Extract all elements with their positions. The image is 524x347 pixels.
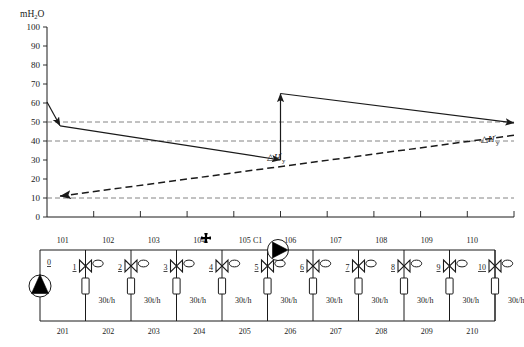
orifice-1 xyxy=(82,278,89,294)
valve-number-7: 7 xyxy=(346,263,350,272)
flow-label-10: 30t/h xyxy=(508,296,524,305)
series-supply-head-segment-a xyxy=(60,126,280,160)
valve-number-2: 2 xyxy=(118,263,122,272)
valve-number-1: 1 xyxy=(73,263,77,272)
valve-handwheel-1 xyxy=(93,260,103,267)
valve-handwheel-3 xyxy=(184,260,194,267)
branch-3: 330t/h xyxy=(164,250,206,321)
bottom-node-label-209: 209 xyxy=(421,327,433,336)
booster-pump[interactable]: C1 xyxy=(253,236,289,261)
x-axis-ticks xyxy=(94,211,514,217)
source-pump-label: 0 xyxy=(47,258,51,267)
y-tick-label: 100 xyxy=(27,22,41,32)
flow-label-7: 30t/h xyxy=(372,296,388,305)
top-node-label-101: 101 xyxy=(57,236,69,245)
top-node-label-103: 103 xyxy=(148,236,160,245)
flow-label-8: 30t/h xyxy=(417,296,433,305)
valve-handwheel-2 xyxy=(138,260,148,267)
y-tick-label: 20 xyxy=(31,174,41,184)
bottom-node-label-204: 204 xyxy=(193,327,205,336)
delta-sub-1: y xyxy=(282,157,286,164)
valve-handwheel-9 xyxy=(457,260,467,267)
branch-10: 1030t/h xyxy=(478,250,524,321)
y-tick-label: 30 xyxy=(31,155,41,165)
valve-6[interactable] xyxy=(307,260,331,272)
series-layer xyxy=(47,94,514,197)
orifice-10 xyxy=(491,278,498,294)
flow-label-1: 30t/h xyxy=(99,296,115,305)
y-tick-label: 10 xyxy=(31,193,41,203)
y-axis-ticks: 0102030405060708090100 xyxy=(27,22,48,222)
orifice-4 xyxy=(218,278,225,294)
delta-h-mid-label: △H′y xyxy=(267,151,286,165)
top-node-label-102: 102 xyxy=(102,236,114,245)
branch-4: 430t/h xyxy=(209,250,251,321)
delta-tri-1: △ xyxy=(267,152,274,162)
series-return-head-line xyxy=(60,135,514,196)
flow-label-3: 30t/h xyxy=(190,296,206,305)
bottom-node-label-201: 201 xyxy=(57,327,69,336)
diagram-root: mH2O 0102030405060708090100 △H′y △H′y xyxy=(0,0,524,347)
top-node-label-107: 107 xyxy=(330,236,342,245)
flow-label-4: 30t/h xyxy=(235,296,251,305)
y-tick-label: 60 xyxy=(31,98,41,108)
bottom-node-label-206: 206 xyxy=(284,327,296,336)
bottom-node-label-207: 207 xyxy=(330,327,342,336)
branch-2: 230t/h xyxy=(118,250,160,321)
valve-handwheel-4 xyxy=(229,260,239,267)
delta-sub-2: y xyxy=(496,139,500,146)
valve-10[interactable] xyxy=(489,260,513,272)
orifice-8 xyxy=(400,278,407,294)
unit-main: mH xyxy=(20,9,34,19)
y-axis-unit-label: mH2O xyxy=(20,9,45,20)
y-tick-label: 0 xyxy=(36,212,41,222)
flow-label-9: 30t/h xyxy=(463,296,479,305)
series-supply-head-segment-b xyxy=(281,94,515,123)
valve-number-9: 9 xyxy=(437,263,441,272)
top-node-label-109: 109 xyxy=(421,236,433,245)
valve-handwheel-8 xyxy=(411,260,421,267)
orifice-6 xyxy=(309,278,316,294)
orifice-2 xyxy=(127,278,134,294)
valve-number-10: 10 xyxy=(478,263,486,272)
valve-number-5: 5 xyxy=(255,263,259,272)
delta-h-right-label: △H′y xyxy=(481,133,500,147)
valve-1[interactable] xyxy=(80,260,104,272)
delta-tri-2: △ xyxy=(481,134,488,144)
valve-number-4: 4 xyxy=(209,263,213,272)
valve-number-8: 8 xyxy=(391,263,395,272)
hydraulic-profile-and-network-diagram: mH2O 0102030405060708090100 △H′y △H′y xyxy=(0,0,524,347)
top-node-label-110: 110 xyxy=(466,236,478,245)
valve-number-6: 6 xyxy=(300,263,304,272)
flow-label-2: 30t/h xyxy=(144,296,160,305)
bottom-node-label-205: 205 xyxy=(239,327,251,336)
valve-handwheel-7 xyxy=(366,260,376,267)
top-node-label-108: 108 xyxy=(375,236,387,245)
y-tick-label: 80 xyxy=(31,60,41,70)
valve-number-3: 3 xyxy=(164,263,168,272)
valve-4[interactable] xyxy=(216,260,240,272)
bottom-node-label-202: 202 xyxy=(102,327,114,336)
flow-label-5: 30t/h xyxy=(281,296,297,305)
branch-7: 730t/h xyxy=(346,250,388,321)
valve-5[interactable] xyxy=(262,260,286,272)
valve-2[interactable] xyxy=(125,260,149,272)
branch-8: 830t/h xyxy=(391,250,433,321)
bottom-node-label-208: 208 xyxy=(375,327,387,336)
valve-handwheel-6 xyxy=(320,260,330,267)
y-tick-label: 50 xyxy=(31,117,41,127)
valve-3[interactable] xyxy=(171,260,195,272)
bottom-node-label-203: 203 xyxy=(148,327,160,336)
y-tick-label: 90 xyxy=(31,41,41,51)
orifice-3 xyxy=(173,278,180,294)
y-tick-label: 70 xyxy=(31,79,41,89)
valve-7[interactable] xyxy=(353,260,377,272)
bottom-node-label-210: 210 xyxy=(466,327,478,336)
chart-panel: mH2O 0102030405060708090100 △H′y △H′y xyxy=(20,9,514,222)
valve-handwheel-5 xyxy=(275,260,285,267)
valve-9[interactable] xyxy=(444,260,468,272)
valve-8[interactable] xyxy=(398,260,422,272)
orifice-9 xyxy=(446,278,453,294)
unit-tail: O xyxy=(38,9,45,19)
pipe-network-panel: 1011021031041051061071081091102012022032… xyxy=(29,234,524,336)
